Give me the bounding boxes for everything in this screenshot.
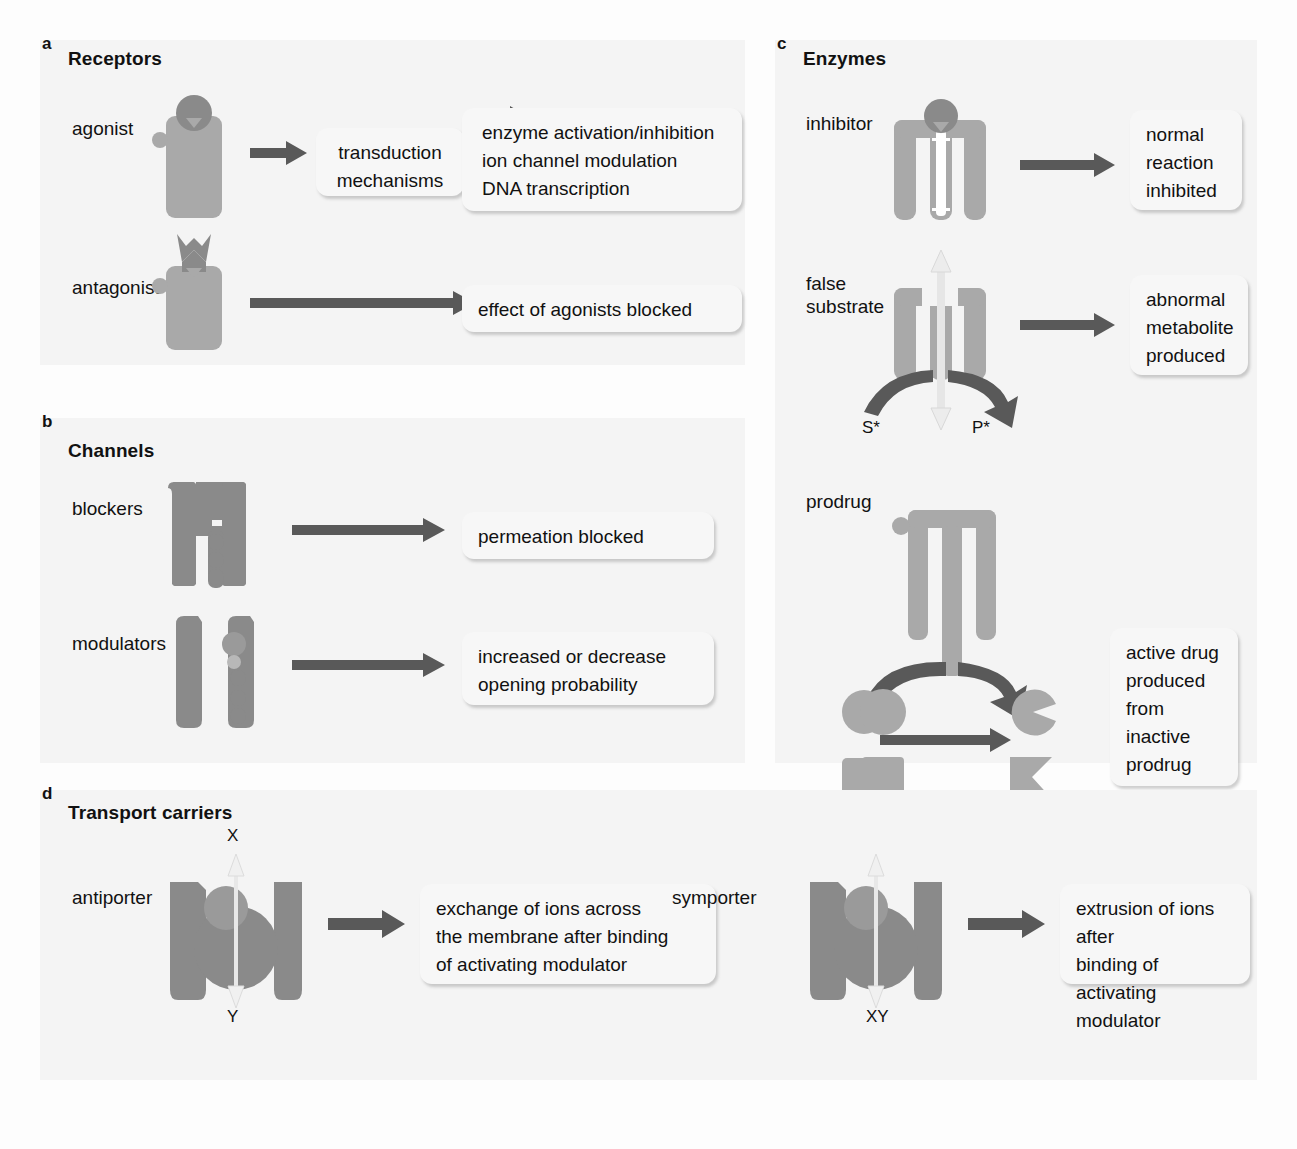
panel-c-title: Enzymes xyxy=(803,48,886,70)
figure-canvas: a Receptors agonist transduction mechani… xyxy=(0,0,1297,1149)
panel-b-letter: b xyxy=(42,412,52,432)
receptor-agonist-shape xyxy=(146,100,246,220)
callout-opening-probability: increased or decrease opening probabilit… xyxy=(462,632,714,705)
panel-b-title: Channels xyxy=(68,440,154,462)
callout-receptor-effects: enzyme activation/inhibition ion channel… xyxy=(462,108,742,211)
row-label-antiporter: antiporter xyxy=(72,886,152,909)
row-label-inhibitor: inhibitor xyxy=(806,112,873,135)
channel-modulator-shape xyxy=(168,612,274,730)
label-transport-y: Y xyxy=(227,1007,238,1027)
arrow-false-substrate-to-result xyxy=(1020,312,1116,338)
channel-blocker-shape xyxy=(160,480,270,586)
label-substrate-star: S* xyxy=(862,418,880,438)
row-label-agonist: agonist xyxy=(72,117,133,140)
callout-extrusion-of-ions: extrusion of ions after binding of activ… xyxy=(1060,884,1250,984)
panel-d-title: Transport carriers xyxy=(68,802,232,824)
row-label-prodrug: prodrug xyxy=(806,490,872,513)
arrow-modulators-to-opening xyxy=(292,652,446,678)
callout-transduction-mechanisms: transduction mechanisms xyxy=(316,128,464,196)
prodrug-active-circle xyxy=(1008,687,1058,737)
arrow-symporter-to-result xyxy=(968,910,1046,938)
label-product-star: P* xyxy=(972,418,990,438)
panel-d-letter: d xyxy=(42,784,52,804)
panel-a-letter: a xyxy=(42,34,51,54)
symporter-shape xyxy=(800,850,960,1010)
row-label-symporter: symporter xyxy=(672,886,756,909)
arrow-prodrug-conversion xyxy=(880,727,1012,753)
row-label-modulators: modulators xyxy=(72,632,166,655)
label-transport-x: X xyxy=(227,826,238,846)
arrow-agonist-to-transduction xyxy=(250,140,308,166)
enzyme-inhibitor-shape xyxy=(888,100,998,225)
panel-b xyxy=(40,418,745,763)
row-label-blockers: blockers xyxy=(72,497,143,520)
enzyme-false-substrate-shape xyxy=(888,250,1008,435)
callout-agonist-effect-blocked: effect of agonists blocked xyxy=(462,285,742,332)
label-transport-xy: XY xyxy=(866,1007,889,1027)
arrow-blockers-to-permeation xyxy=(292,517,446,543)
callout-permeation-blocked: permeation blocked xyxy=(462,512,714,559)
callout-abnormal-metabolite: abnormal metabolite produced xyxy=(1130,275,1248,375)
arrow-antiporter-to-result xyxy=(328,910,406,938)
arrow-inhibitor-to-result xyxy=(1020,152,1116,178)
antiporter-shape xyxy=(160,850,320,1010)
callout-active-drug-produced: active drug produced from inactive prodr… xyxy=(1110,628,1238,786)
arrow-antagonist-to-effect xyxy=(250,290,476,316)
row-label-false-substrate: false substrate xyxy=(806,272,884,318)
panel-a-title: Receptors xyxy=(68,48,162,70)
callout-normal-reaction-inhibited: normal reaction inhibited xyxy=(1130,110,1242,210)
receptor-antagonist-shape xyxy=(146,228,246,350)
panel-c-letter: c xyxy=(777,34,786,54)
